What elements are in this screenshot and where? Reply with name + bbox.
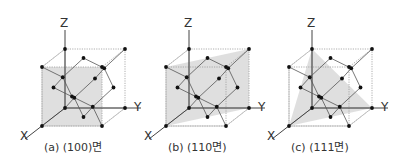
axis-label-y-b: Y (258, 100, 265, 114)
atom (185, 75, 189, 79)
atom (349, 66, 353, 70)
axis-label-z-c: Z (307, 16, 315, 30)
atom (40, 65, 44, 69)
bond (342, 68, 351, 78)
atom (52, 86, 56, 90)
atom (82, 56, 86, 60)
atom (319, 96, 323, 100)
cube-panel-b (149, 30, 265, 139)
bond (104, 68, 113, 87)
atom (340, 77, 344, 81)
cube-panel-a (25, 30, 141, 139)
atom (226, 66, 230, 70)
axis-label-z-b: Z (184, 16, 192, 30)
atom (329, 115, 333, 119)
atom (247, 106, 251, 110)
atom (215, 105, 219, 109)
atom (72, 96, 76, 100)
atom (123, 106, 127, 110)
atom (61, 75, 65, 79)
atom (329, 56, 333, 60)
x-axis (272, 108, 312, 139)
atom (347, 124, 351, 128)
atom (102, 66, 106, 70)
atom (40, 124, 44, 128)
bond (351, 49, 372, 68)
atom (63, 47, 67, 51)
atom (224, 124, 228, 128)
axis-label-x-b: X (144, 129, 152, 143)
atom (370, 106, 374, 110)
axis-label-y-a: Y (134, 100, 141, 114)
atom (370, 47, 374, 51)
axis-label-z-a: Z (60, 16, 68, 30)
axis-label-y-c: Y (381, 100, 388, 114)
atom (91, 105, 95, 109)
caption-c: (c) (111면) (291, 138, 349, 154)
atom (93, 77, 97, 81)
cube-panel-c (272, 30, 388, 139)
atom (310, 106, 314, 110)
caption-a: (a) (100)면 (44, 138, 102, 154)
cube-edge (102, 108, 125, 126)
atom (338, 105, 342, 109)
atom (164, 124, 168, 128)
atom (308, 75, 312, 79)
atom (247, 47, 251, 51)
atom (310, 47, 314, 51)
atom (112, 86, 116, 90)
caption-b: (b) (110면) (168, 138, 227, 154)
atom (206, 115, 210, 119)
atom (217, 77, 221, 81)
atom (206, 56, 210, 60)
atom (100, 124, 104, 128)
axis-label-x-a: X (20, 129, 28, 143)
atom (236, 86, 240, 90)
atom (187, 106, 191, 110)
atom (63, 106, 67, 110)
atom (82, 115, 86, 119)
atom (359, 86, 363, 90)
atom (123, 47, 127, 51)
atom (187, 47, 191, 51)
atom (287, 124, 291, 128)
cube-edge (42, 49, 65, 67)
atom (196, 96, 200, 100)
atom (299, 86, 303, 90)
atom (287, 65, 291, 69)
atom (176, 86, 180, 90)
bond (351, 68, 360, 87)
axis-label-x-c: X (267, 129, 275, 143)
bond (104, 49, 125, 68)
atom (164, 65, 168, 69)
